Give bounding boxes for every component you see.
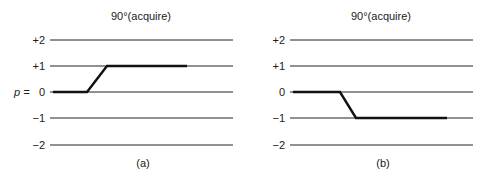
- level-label-plus2: +2: [32, 34, 45, 46]
- level-label-zero: 0: [279, 86, 285, 98]
- p-axis-label: p =: [13, 86, 30, 98]
- panel-a: 90°(acquire) p = +2 +1 0 −1 −2 (a): [13, 10, 233, 169]
- level-label-plus1: +1: [32, 60, 45, 72]
- level-label-minus2: −2: [272, 139, 285, 151]
- level-label-minus2: −2: [32, 139, 45, 151]
- level-label-zero: 0: [39, 86, 45, 98]
- coherence-path-a: [53, 66, 187, 92]
- panel-a-caption: (a): [136, 157, 149, 169]
- coherence-path-b: [293, 92, 447, 118]
- panel-b-caption: (b): [376, 157, 389, 169]
- panel-b: 90°(acquire) +2 +1 0 −1 −2 (b): [272, 10, 473, 169]
- level-label-plus2: +2: [272, 34, 285, 46]
- panel-b-title: 90°(acquire): [351, 10, 411, 22]
- level-label-minus1: −1: [272, 112, 285, 124]
- panel-a-title: 90°(acquire): [111, 10, 171, 22]
- level-label-plus1: +1: [272, 60, 285, 72]
- coherence-pathway-diagram: 90°(acquire) p = +2 +1 0 −1 −2 (a) 90°(a…: [0, 0, 483, 177]
- level-label-minus1: −1: [32, 112, 45, 124]
